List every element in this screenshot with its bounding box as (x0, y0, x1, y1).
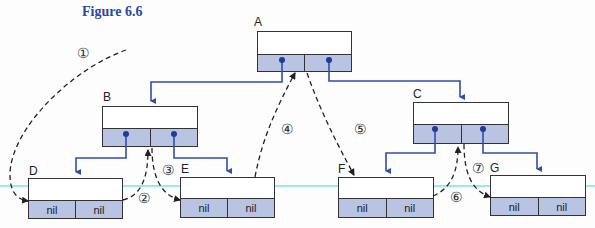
pointer-dot (326, 57, 332, 63)
traversal-path-1 (10, 50, 126, 201)
edge-b-d (76, 135, 126, 172)
step-marker-7: ⑦ (472, 161, 485, 175)
pointer-dot (432, 126, 438, 132)
step-marker-6: ⑥ (450, 190, 463, 204)
edges-layer (0, 0, 595, 228)
edge-c-f (386, 130, 435, 171)
edge-b-e (174, 135, 227, 171)
edge-a-c (329, 60, 460, 97)
step-marker-2: ② (138, 191, 151, 205)
pointer-dot (123, 131, 129, 137)
pointer-dot (480, 126, 486, 132)
step-marker-3: ③ (162, 163, 175, 177)
pointer-dot (171, 131, 177, 137)
step-marker-4: ④ (281, 122, 294, 136)
pointer-dot (279, 57, 285, 63)
edge-a-b (151, 60, 282, 101)
figure-canvas: Figure 6.6 A B C D E F G nil nil (0, 0, 595, 228)
step-marker-5: ⑤ (354, 122, 367, 136)
edge-c-g (483, 130, 537, 169)
traversal-path-5 (307, 73, 354, 175)
step-marker-1: ① (77, 46, 90, 60)
